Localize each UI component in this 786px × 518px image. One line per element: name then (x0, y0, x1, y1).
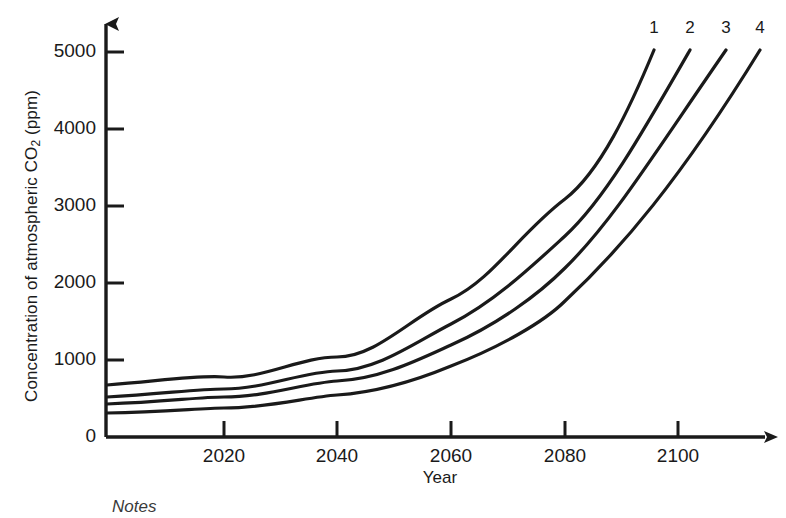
curve-label-1: 1 (641, 19, 667, 36)
x-axis-ticks (224, 421, 678, 437)
notes-label: Notes (112, 498, 156, 515)
x-tick-label-2100: 2100 (633, 446, 723, 465)
curve-label-4: 4 (747, 19, 773, 36)
y-axis-title: Concentration of atmospheric CO2 (ppm) (22, 46, 42, 446)
y-tick-label-5000: 5000 (22, 41, 96, 60)
x-tick-label-2060: 2060 (406, 446, 496, 465)
x-tick-label-2040: 2040 (292, 446, 382, 465)
curve-label-2: 2 (677, 19, 703, 36)
y-tick-label-4000: 4000 (22, 118, 96, 137)
y-axis-ticks (106, 52, 124, 360)
chart-plot-area (0, 0, 786, 518)
axes-group (106, 24, 765, 437)
curve-series-4 (107, 50, 760, 413)
y-tick-label-3000: 3000 (22, 195, 96, 214)
x-tick-label-2080: 2080 (520, 446, 610, 465)
x-axis-title: Year (340, 468, 540, 488)
y-tick-label-1000: 1000 (22, 349, 96, 368)
co2-concentration-figure: Concentration of atmospheric CO2 (ppm) Y… (0, 0, 786, 518)
curve-series-1 (107, 50, 654, 385)
y-tick-label-0: 0 (22, 426, 96, 445)
y-axis-title-subscript: 2 (29, 140, 43, 147)
y-tick-label-2000: 2000 (22, 272, 96, 291)
curve-label-3: 3 (713, 19, 739, 36)
x-tick-label-2020: 2020 (179, 446, 269, 465)
data-curves (107, 50, 760, 413)
